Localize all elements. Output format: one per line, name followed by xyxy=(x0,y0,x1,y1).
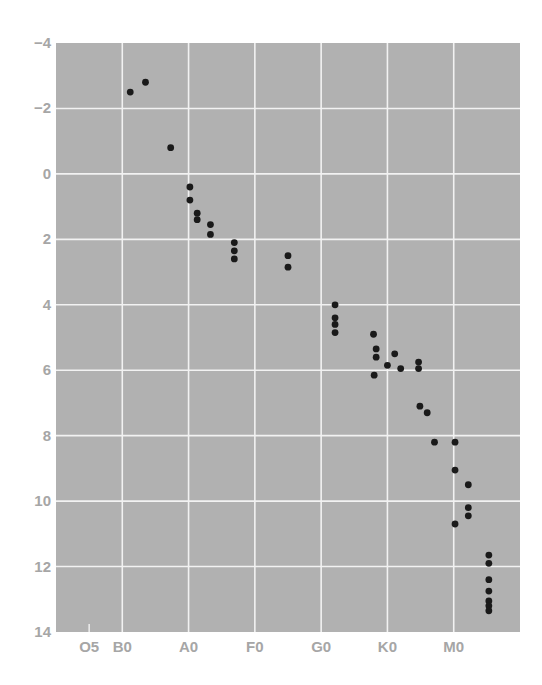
data-point xyxy=(186,184,193,191)
data-point xyxy=(452,439,459,446)
y-tick-label: 12 xyxy=(34,558,51,575)
data-point xyxy=(231,239,238,246)
x-tick-label: B0 xyxy=(113,638,132,655)
data-point xyxy=(231,247,238,254)
y-tick-label: 10 xyxy=(34,492,51,509)
data-point xyxy=(391,350,398,357)
y-tick-label: 14 xyxy=(34,623,51,640)
y-tick-label: −2 xyxy=(34,99,51,116)
data-point xyxy=(373,354,380,361)
data-point xyxy=(415,359,422,366)
data-point xyxy=(285,252,292,259)
data-point xyxy=(465,481,472,488)
y-tick-label: 6 xyxy=(43,361,51,378)
data-point xyxy=(231,256,238,263)
data-point xyxy=(371,372,378,379)
data-point xyxy=(397,365,404,372)
data-point xyxy=(431,439,438,446)
data-point xyxy=(127,89,134,96)
data-point xyxy=(485,607,492,614)
data-point xyxy=(285,264,292,271)
data-point xyxy=(485,552,492,559)
data-point xyxy=(485,576,492,583)
data-point xyxy=(415,365,422,372)
data-point xyxy=(142,79,149,86)
data-point xyxy=(465,504,472,511)
data-point xyxy=(373,346,380,353)
x-tick-label: O5 xyxy=(79,638,99,655)
data-point xyxy=(332,321,339,328)
y-axis-ticks: −4−202468101214 xyxy=(34,34,52,640)
data-point xyxy=(384,362,391,369)
x-tick-label: G0 xyxy=(311,638,331,655)
data-point xyxy=(332,314,339,321)
x-tick-label: M0 xyxy=(443,638,464,655)
y-tick-label: 4 xyxy=(43,296,52,313)
data-point xyxy=(452,521,459,528)
y-tick-label: −4 xyxy=(34,34,52,51)
y-tick-label: 8 xyxy=(43,427,51,444)
data-point xyxy=(207,221,214,228)
data-point xyxy=(207,231,214,238)
data-point xyxy=(424,409,431,416)
plot-area xyxy=(56,43,520,632)
data-point xyxy=(465,512,472,519)
y-tick-label: 2 xyxy=(43,230,51,247)
data-point xyxy=(194,216,201,223)
data-point xyxy=(485,560,492,567)
x-axis-ticks: O5B0A0F0G0K0M0 xyxy=(79,638,464,655)
data-point xyxy=(452,467,459,474)
x-tick-label: F0 xyxy=(246,638,264,655)
data-point xyxy=(485,588,492,595)
y-tick-label: 0 xyxy=(43,165,51,182)
data-point xyxy=(370,331,377,338)
data-point xyxy=(332,301,339,308)
x-tick-label: A0 xyxy=(179,638,198,655)
data-point xyxy=(194,210,201,217)
data-point xyxy=(417,403,424,410)
data-point xyxy=(186,197,193,204)
x-tick-label: K0 xyxy=(378,638,397,655)
hr-diagram-chart: O5B0A0F0G0K0M0 −4−202468101214 xyxy=(0,0,542,685)
data-point xyxy=(167,144,174,151)
data-point xyxy=(332,329,339,336)
